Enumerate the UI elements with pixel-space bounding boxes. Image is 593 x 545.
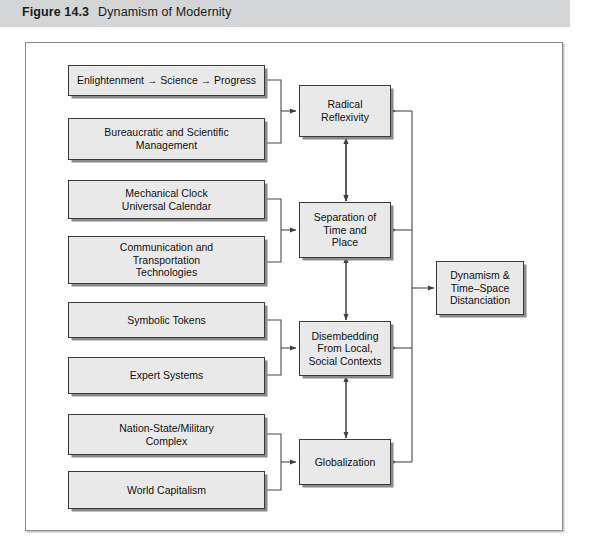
node-mechanical-clock-universal-calendar: Mechanical Clock Universal Calendar: [68, 180, 265, 219]
node-bureaucratic-scientific-management: Bureaucratic and Scientific Management: [68, 118, 265, 160]
node-dynamism-time-space-distanciation: Dynamism & Time–Space Distanciation: [436, 261, 524, 315]
node-label: Globalization: [315, 456, 376, 469]
node-globalization: Globalization: [299, 439, 391, 485]
diagram-canvas: Enlightenment → Science → Progress Burea…: [0, 0, 593, 545]
node-separation-of-time-and-place: Separation of Time and Place: [299, 202, 391, 258]
node-label: Expert Systems: [130, 369, 204, 382]
node-symbolic-tokens: Symbolic Tokens: [68, 302, 265, 338]
node-expert-systems: Expert Systems: [68, 357, 265, 394]
node-label: Radical Reflexivity: [321, 98, 369, 123]
node-label: Symbolic Tokens: [127, 314, 206, 327]
node-world-capitalism: World Capitalism: [68, 471, 265, 509]
node-label: Bureaucratic and Scientific Management: [104, 126, 228, 151]
node-radical-reflexivity: Radical Reflexivity: [299, 85, 391, 137]
node-label: Enlightenment → Science → Progress: [77, 74, 256, 87]
node-enlightenment: Enlightenment → Science → Progress: [68, 65, 265, 96]
node-label: Mechanical Clock Universal Calendar: [122, 187, 211, 212]
node-label: Dynamism & Time–Space Distanciation: [450, 269, 510, 307]
node-label: Separation of Time and Place: [314, 211, 376, 249]
node-label: Communication and Transportation Technol…: [120, 241, 213, 279]
node-nation-state-military-complex: Nation-State/Military Complex: [68, 414, 265, 455]
node-label: World Capitalism: [127, 484, 206, 497]
node-disembedding-from-local-social-contexts: Disembedding From Local, Social Contexts: [299, 321, 391, 376]
node-label: Disembedding From Local, Social Contexts: [309, 330, 382, 368]
node-communication-transportation-technologies: Communication and Transportation Technol…: [68, 236, 265, 284]
node-label: Nation-State/Military Complex: [119, 422, 214, 447]
